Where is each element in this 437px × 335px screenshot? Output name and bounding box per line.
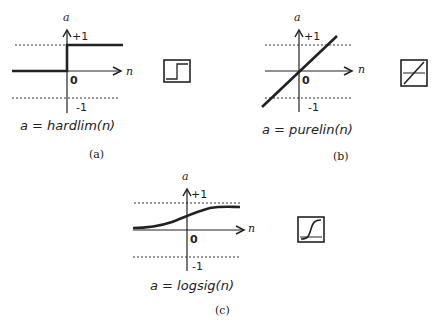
panel-hardlim: a +1 n 0 -1 a = hardlim(n) (a) (12, 11, 190, 161)
equation: a = logsig(n) (150, 278, 234, 293)
caption: (b) (333, 150, 349, 163)
origin-label: 0 (302, 74, 310, 87)
origin-label: 0 (190, 233, 198, 246)
tick-plus-one: +1 (304, 30, 320, 43)
step-function-icon (164, 60, 190, 82)
equation: a = hardlim(n) (20, 118, 115, 133)
x-axis-label: n (126, 65, 133, 78)
x-axis-label: n (358, 63, 365, 76)
hardlim-curve (12, 45, 123, 71)
sigmoid-function-icon (298, 217, 324, 242)
tick-minus-one: -1 (308, 101, 319, 114)
tick-plus-one: +1 (191, 188, 207, 201)
tick-minus-one: -1 (76, 101, 87, 114)
y-axis-label: a (294, 11, 301, 24)
tick-plus-one: +1 (72, 30, 88, 43)
y-axis-label: a (63, 11, 70, 24)
y-axis-label: a (182, 170, 189, 183)
equation: a = purelin(n) (262, 122, 353, 137)
panel-purelin: a +1 n 0 -1 a = purelin(n) (b) (262, 11, 427, 163)
caption: (a) (89, 148, 104, 161)
tick-minus-one: -1 (192, 260, 203, 273)
caption: (c) (215, 304, 230, 317)
transfer-functions-figure: a +1 n 0 -1 a = hardlim(n) (a) a +1 n 0 … (0, 0, 437, 335)
x-axis-label: n (248, 222, 255, 235)
panel-logsig: a +1 n 0 -1 a = logsig(n) (c) (133, 170, 324, 317)
origin-label: 0 (70, 74, 78, 87)
linear-function-icon (401, 60, 427, 86)
